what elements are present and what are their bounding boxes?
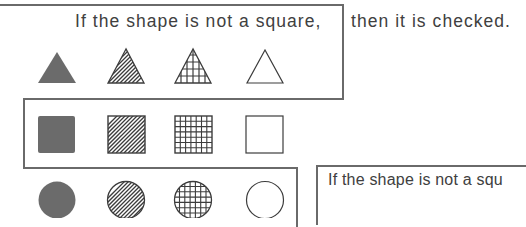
triangle-grid (170, 45, 215, 85)
circle-empty (247, 182, 284, 219)
circle-grid (173, 180, 213, 218)
circle-diagonal-hatch (84, 178, 172, 218)
triangle-solid (38, 52, 76, 83)
triangle-diagonal-hatch (92, 43, 176, 83)
square-grid (175, 116, 212, 153)
square-solid (38, 116, 75, 153)
row-squares (38, 113, 283, 153)
row-circles (39, 178, 284, 218)
circle-solid (39, 182, 76, 219)
shape-grid (0, 0, 520, 218)
square-empty (246, 116, 283, 153)
square-diagonal-hatch (80, 113, 180, 153)
triangle-empty (247, 50, 283, 83)
row-triangles (38, 43, 283, 85)
